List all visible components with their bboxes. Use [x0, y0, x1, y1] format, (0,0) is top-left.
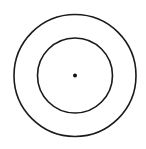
- concentric-circles-figure: [0, 0, 146, 149]
- center-point: [73, 74, 77, 78]
- diagram-canvas: [0, 0, 146, 149]
